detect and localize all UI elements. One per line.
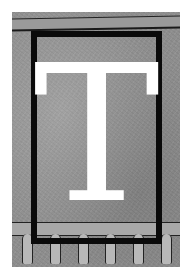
drop-cap-letter: T <box>31 40 162 230</box>
baluster <box>161 234 172 264</box>
